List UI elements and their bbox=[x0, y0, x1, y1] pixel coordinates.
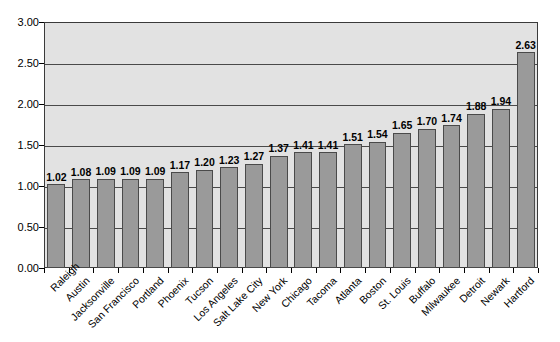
bar[interactable] bbox=[146, 179, 164, 268]
bar-slot: 1.65 bbox=[390, 22, 415, 268]
bar-slot: 1.20 bbox=[192, 22, 217, 268]
y-axis-tick-label: 2.50 bbox=[5, 58, 39, 69]
bar[interactable] bbox=[344, 144, 362, 268]
x-axis-tick bbox=[390, 268, 391, 273]
x-axis-tick bbox=[316, 268, 317, 273]
bar[interactable] bbox=[418, 129, 436, 268]
x-axis-tick bbox=[415, 268, 416, 273]
bar[interactable] bbox=[319, 152, 337, 268]
bar[interactable] bbox=[492, 109, 510, 268]
y-axis-tick-label: 0.00 bbox=[5, 263, 39, 274]
x-axis-tick bbox=[93, 268, 94, 273]
bar-slot: 1.51 bbox=[340, 22, 365, 268]
x-axis-tick bbox=[340, 268, 341, 273]
bar-slot: 1.94 bbox=[489, 22, 514, 268]
bar-slot: 1.54 bbox=[365, 22, 390, 268]
x-axis-tick bbox=[192, 268, 193, 273]
x-axis-tick bbox=[291, 268, 292, 273]
bar-slot: 1.23 bbox=[217, 22, 242, 268]
bar[interactable] bbox=[369, 142, 387, 268]
bar-slot: 1.17 bbox=[168, 22, 193, 268]
bar-slot: 1.41 bbox=[316, 22, 341, 268]
bar-slot: 1.09 bbox=[118, 22, 143, 268]
x-axis-tick bbox=[143, 268, 144, 273]
bar[interactable] bbox=[171, 172, 189, 268]
bar[interactable] bbox=[97, 179, 115, 268]
x-axis-tick bbox=[489, 268, 490, 273]
bar[interactable] bbox=[245, 164, 263, 268]
x-axis-tick bbox=[69, 268, 70, 273]
x-axis-category-label: Raleigh bbox=[48, 275, 66, 293]
y-axis-tick-label: 2.00 bbox=[5, 99, 39, 110]
bar[interactable] bbox=[122, 179, 140, 268]
bar[interactable] bbox=[220, 167, 238, 268]
y-axis-tick-label: 1.00 bbox=[5, 181, 39, 192]
x-axis-tick bbox=[513, 268, 514, 273]
bars-layer: 1.021.081.091.091.091.171.201.231.271.37… bbox=[44, 22, 538, 268]
x-axis-tick bbox=[464, 268, 465, 273]
bar[interactable] bbox=[443, 125, 461, 268]
y-axis-tick-label: 0.50 bbox=[5, 222, 39, 233]
x-axis-tick bbox=[538, 268, 539, 273]
bar[interactable] bbox=[47, 184, 65, 268]
x-axis-tick bbox=[168, 268, 169, 273]
bar-slot: 1.09 bbox=[93, 22, 118, 268]
bar-slot: 1.02 bbox=[44, 22, 69, 268]
bar[interactable] bbox=[72, 179, 90, 268]
bar[interactable] bbox=[517, 52, 535, 268]
x-axis-tick bbox=[266, 268, 267, 273]
x-axis-tick bbox=[44, 268, 45, 273]
x-axis-tick bbox=[365, 268, 366, 273]
bar[interactable] bbox=[467, 114, 485, 268]
x-axis-tick bbox=[439, 268, 440, 273]
bar-chart: 0.000.501.001.502.002.503.00 1.021.081.0… bbox=[0, 0, 560, 342]
x-axis-tick bbox=[118, 268, 119, 273]
bar-slot: 1.09 bbox=[143, 22, 168, 268]
y-axis-tick-label: 3.00 bbox=[5, 17, 39, 28]
bar-slot: 1.08 bbox=[69, 22, 94, 268]
bar[interactable] bbox=[294, 152, 312, 268]
bar[interactable] bbox=[393, 133, 411, 268]
x-axis-tick bbox=[242, 268, 243, 273]
bar-slot: 1.70 bbox=[415, 22, 440, 268]
bar[interactable] bbox=[196, 170, 214, 268]
x-axis-tick bbox=[217, 268, 218, 273]
bar[interactable] bbox=[270, 156, 288, 268]
bar-slot: 1.74 bbox=[439, 22, 464, 268]
bar-slot: 2.63 bbox=[513, 22, 538, 268]
y-axis-tick-label: 1.50 bbox=[5, 140, 39, 151]
bar-slot: 1.88 bbox=[464, 22, 489, 268]
x-axis: RaleighAustinJacksonvilleSan FranciscoPo… bbox=[44, 268, 538, 342]
bar-value-label: 2.63 bbox=[507, 40, 544, 51]
